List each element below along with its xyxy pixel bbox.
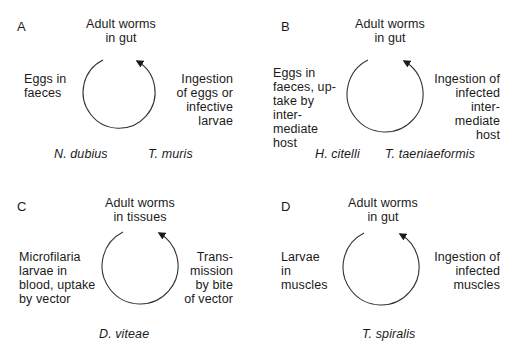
cycle-arrow-d: [343, 233, 419, 305]
species-c: D. viteae: [99, 327, 149, 341]
stage-top-d: Adult worms in gut: [338, 196, 428, 224]
stage-left-d: Larvae in muscles: [281, 250, 328, 292]
species-d: T. spiralis: [362, 327, 415, 341]
stage-right-b: Ingestion of infected inter- mediate hos…: [410, 72, 500, 142]
stage-left-a: Eggs in faeces: [24, 72, 66, 100]
species-a-2: T. muris: [148, 147, 193, 161]
stage-right-c: Trans- mission by bite of vector: [170, 250, 233, 306]
stage-top-a: Adult worms in gut: [76, 17, 166, 45]
stage-left-b: Eggs in faeces, up- take by inter- media…: [273, 66, 336, 150]
stage-right-a: Ingestion of eggs or infective larvae: [150, 72, 233, 128]
panel-label-a: A: [17, 20, 26, 34]
stage-left-c: Microfilaria larvae in blood, uptake by …: [19, 250, 95, 306]
stage-top-c: Adult worms in tissues: [95, 196, 185, 224]
panel-label-d: D: [281, 200, 291, 214]
stage-top-b: Adult worms in gut: [345, 17, 435, 45]
panel-label-c: C: [17, 200, 27, 214]
cycle-arrow-c: [102, 232, 178, 304]
species-a-1: N. dubius: [54, 147, 108, 161]
species-b-2: T. taeniaeformis: [385, 147, 475, 161]
species-b-1: H. citelli: [315, 147, 360, 161]
cycle-arrow-a: [83, 60, 155, 128]
stage-right-d: Ingestion of infected muscles: [410, 250, 500, 292]
panel-label-b: B: [281, 20, 290, 34]
